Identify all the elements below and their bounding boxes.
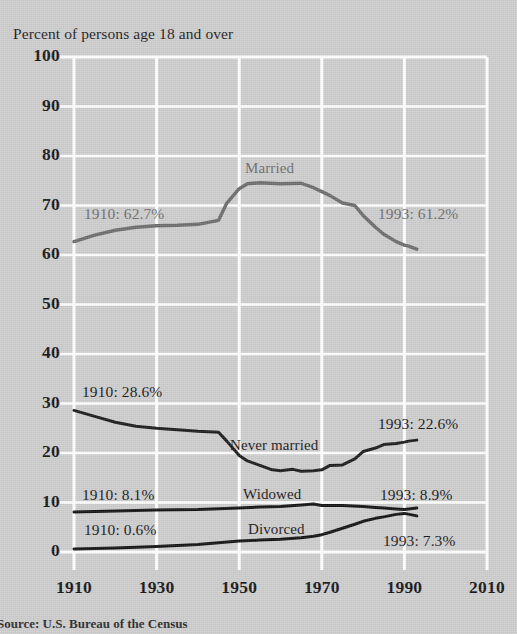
y-axis-tick-label: 70 (8, 194, 60, 215)
series-label-married: Married (245, 160, 294, 177)
series-label-never-married: Never married (230, 437, 318, 454)
annotation-married-end: 1993: 61.2% (378, 205, 458, 223)
x-axis-tick-label: 1990 (364, 577, 444, 598)
y-axis-tick-label: 40 (8, 342, 60, 363)
annotation-widowed-end: 1993: 8.9% (380, 486, 452, 504)
y-axis-tick-label: 60 (8, 243, 60, 264)
series-label-divorced: Divorced (248, 521, 305, 538)
y-axis-tick-label: 20 (8, 441, 60, 462)
y-axis-tick-label: 90 (8, 95, 60, 116)
annotation-married-start: 1910: 62.7% (84, 205, 164, 223)
annotation-never-married-start: 1910: 28.6% (82, 383, 162, 401)
annotation-widowed-start: 1910: 8.1% (82, 486, 154, 504)
y-axis-tick-label: 80 (8, 144, 60, 165)
chart-figure: Percent of persons age 18 and over 10090… (0, 0, 517, 634)
x-axis-tick-label: 1950 (199, 577, 279, 598)
y-axis-tick-label: 50 (8, 293, 60, 314)
x-axis-tick-label: 1910 (34, 577, 114, 598)
y-axis-tick-label: 0 (8, 540, 60, 561)
annotation-divorced-start: 1910: 0.6% (84, 521, 156, 539)
annotation-divorced-end: 1993: 7.3% (383, 532, 455, 550)
x-axis-tick-label: 1970 (282, 577, 362, 598)
y-axis-tick-label: 30 (8, 392, 60, 413)
annotation-never-married-end: 1993: 22.6% (378, 415, 458, 433)
series-label-widowed: Widowed (243, 486, 301, 503)
y-axis-tick-label: 10 (8, 491, 60, 512)
source-note: Source: U.S. Bureau of the Census (0, 616, 188, 632)
y-axis-tick-label: 100 (8, 45, 60, 66)
series-line-widowed (74, 504, 417, 512)
x-axis-tick-label: 1930 (117, 577, 197, 598)
x-axis-tick-label: 2010 (447, 577, 517, 598)
